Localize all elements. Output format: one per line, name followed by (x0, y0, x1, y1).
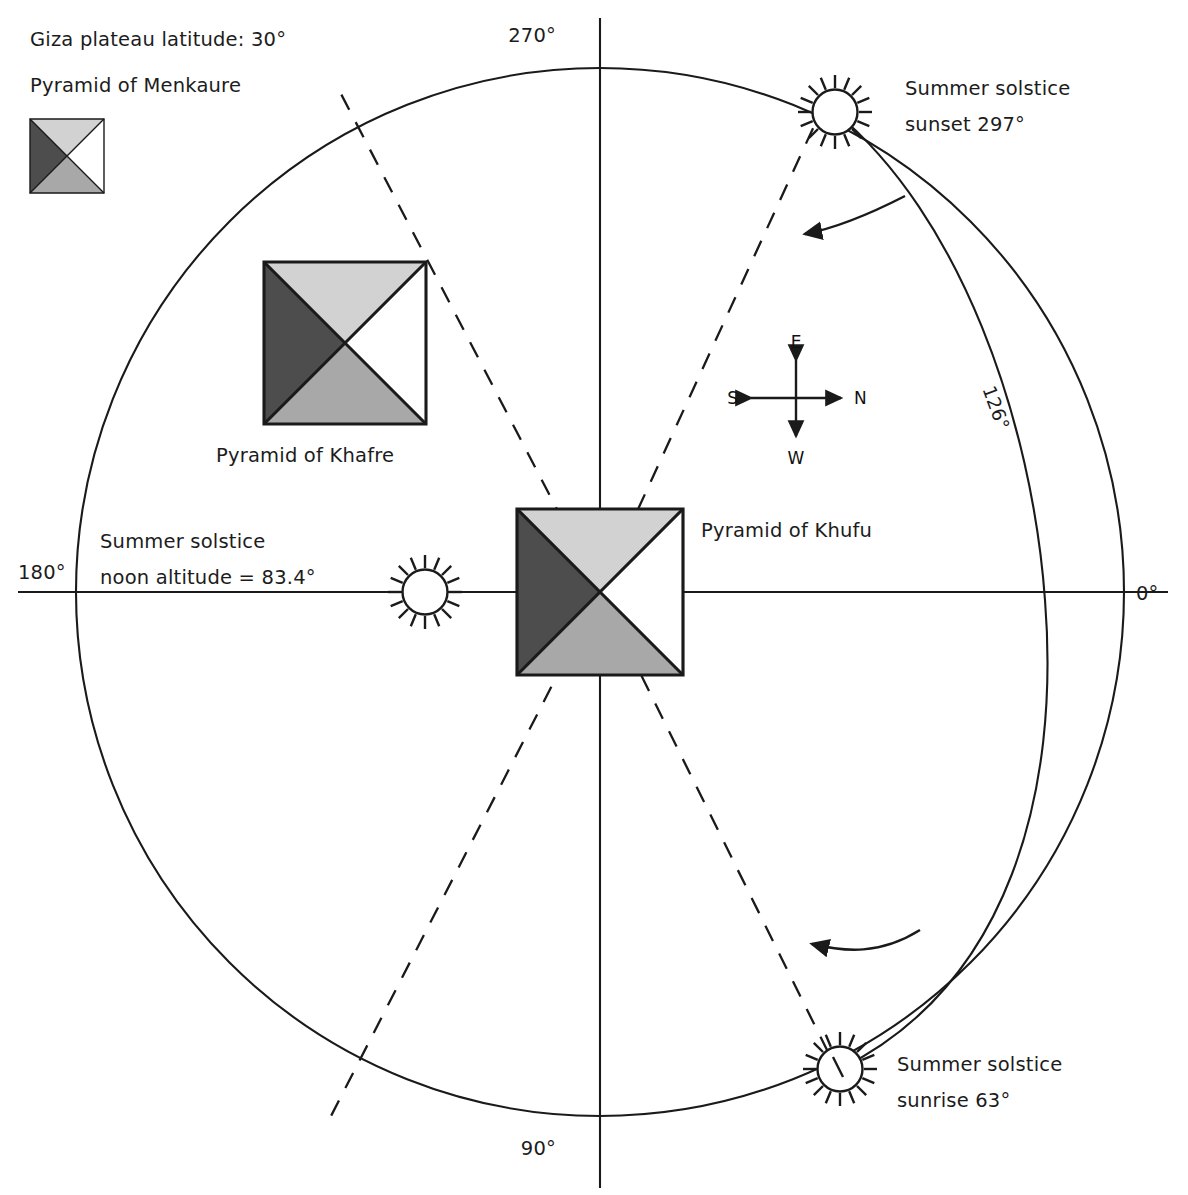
noon-altitude-line1: Summer solstice (100, 530, 265, 553)
sunrise-label-line2: sunrise 63° (897, 1089, 1010, 1112)
sun-motion-arrows (805, 196, 920, 950)
compass-label-left: S (727, 388, 738, 408)
pyramid-menkaure-label: Pyramid of Menkaure (30, 74, 241, 97)
azimuth-label-180: 180° (18, 561, 66, 584)
sun-sunrise-marker (803, 1032, 877, 1106)
solstice-sun-path-arc (835, 112, 1048, 1069)
sun-sunset-marker (798, 75, 872, 149)
compass-rose: E W S N (727, 332, 867, 468)
day-path-arc (835, 112, 1048, 1069)
sun-motion-arrow-upper (805, 196, 905, 234)
compass-label-down: W (788, 448, 805, 468)
sunset-label-line2: sunset 297° (905, 113, 1025, 136)
pyramid-khafre-label: Pyramid of Khafre (216, 444, 394, 467)
arc-span-label-group: 126° (978, 383, 1013, 433)
diagram-canvas: 126° Pyramid of Khufu Pyramid of Khafre (0, 0, 1188, 1195)
latitude-note: Giza plateau latitude: 30° (30, 28, 286, 51)
noon-altitude-line2: noon altitude = 83.4° (100, 566, 316, 589)
compass-label-right: N (854, 388, 867, 408)
azimuth-label-270: 270° (508, 24, 556, 47)
pyramid-khufu-label: Pyramid of Khufu (701, 519, 872, 542)
pyramid-khafre-symbol (264, 262, 426, 424)
solstice-diagram-svg: 126° Pyramid of Khufu Pyramid of Khafre (0, 0, 1188, 1195)
sun-motion-arrow-lower (812, 930, 920, 950)
sunrise-label-line1: Summer solstice (897, 1053, 1062, 1076)
azimuth-label-0: 0° (1136, 582, 1159, 605)
sunset-label-line1: Summer solstice (905, 77, 1070, 100)
pyramid-khufu-symbol (517, 509, 683, 675)
sun-noon-marker (388, 555, 462, 629)
pyramid-menkaure-symbol (30, 119, 104, 193)
compass-label-up: E (791, 332, 802, 352)
azimuth-label-90: 90° (521, 1137, 556, 1160)
arc-span-label: 126° (978, 383, 1013, 433)
